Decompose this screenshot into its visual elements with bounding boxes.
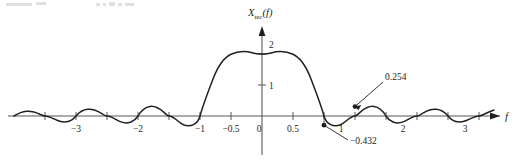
spectrum-plot: −3 −2 −1 −0.5 0 0.5 1 2 3 1 2 Xrec(f) f …	[0, 0, 530, 164]
leader-line-0432	[324, 125, 348, 140]
y-axis-title-subscript: rec	[254, 13, 262, 20]
spectrum-curve	[14, 52, 494, 126]
x-tick-label-3: 3	[463, 124, 468, 134]
x-tick-label-0: 0	[257, 124, 262, 134]
y-axis-arrow	[259, 26, 266, 36]
leader-line-0254	[355, 82, 383, 107]
y-axis-title-arg: (f)	[262, 7, 272, 19]
x-tick-label-2: 2	[401, 124, 406, 134]
x-tick-label-neg2: −2	[133, 124, 143, 134]
y-axis-title: Xrec(f)	[247, 7, 273, 20]
x-axis-arrow	[490, 112, 500, 119]
x-tick-label-neg3: −3	[71, 124, 81, 134]
x-tick-label-1: 1	[339, 124, 344, 134]
x-tick-label-neg1: −1	[195, 124, 205, 134]
x-tick-label-neg0-5: −0.5	[222, 124, 239, 134]
figure-container: −3 −2 −1 −0.5 0 0.5 1 2 3 1 2 Xrec(f) f …	[0, 0, 530, 164]
y-tick-label-1: 1	[269, 81, 274, 91]
annotation-0254: 0.254	[385, 72, 407, 82]
annotation-neg0432: −0.432	[350, 136, 377, 146]
x-tick-label-0-5: 0.5	[287, 124, 299, 134]
x-axis-title: f	[505, 110, 510, 122]
y-tick-label-2: 2	[269, 40, 274, 50]
